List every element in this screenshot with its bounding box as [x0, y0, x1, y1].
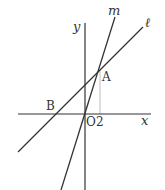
line-m	[61, 17, 115, 190]
x-axis-label: x	[141, 113, 149, 128]
x-tick-2-label: 2	[96, 115, 104, 129]
point-b-label: B	[46, 99, 55, 113]
line-l	[18, 27, 143, 152]
line-m-label: m	[108, 3, 120, 18]
point-a-label: A	[101, 70, 111, 84]
line-l-label: ℓ	[145, 15, 151, 30]
coordinate-diagram: y x m ℓ A B O 2	[0, 0, 165, 190]
origin-label: O	[86, 115, 96, 129]
y-axis-label: y	[72, 19, 81, 34]
